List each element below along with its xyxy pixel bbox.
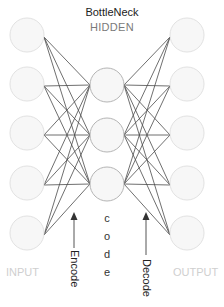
input-label: INPUT (6, 266, 39, 278)
decode-label: Decode (141, 259, 153, 297)
decode-arrow-head-icon (143, 212, 150, 220)
input-node-2 (10, 67, 44, 101)
decode-arrow (143, 212, 150, 255)
output-label: OUTPUT (173, 266, 218, 278)
hidden-bottleneck-layer (90, 68, 124, 201)
output-node-3 (170, 116, 204, 150)
diagram-title: BottleNeck (0, 6, 224, 18)
decoder-edge (124, 37, 170, 85)
encoder-edge (44, 85, 90, 235)
input-node-3 (10, 116, 44, 150)
encode-arrow (71, 212, 78, 248)
diagram-subtitle: HIDDEN (0, 21, 224, 33)
decoder-edge (124, 184, 170, 235)
input-node-4 (10, 166, 44, 200)
code-letter-o: o (100, 230, 114, 242)
encoder-edge (44, 184, 90, 235)
hidden-node-1 (90, 68, 124, 102)
hidden-node-3 (90, 167, 124, 201)
decoder-edge (124, 184, 170, 185)
output-layer (170, 18, 204, 250)
encode-label: Encode (69, 250, 81, 287)
encode-arrow-head-icon (71, 212, 78, 220)
output-node-4 (170, 166, 204, 200)
autoencoder-diagram (0, 0, 224, 307)
decoder-edge (124, 37, 170, 184)
output-node-5 (170, 216, 204, 250)
output-node-2 (170, 67, 204, 101)
input-layer (10, 18, 44, 250)
code-letter-d: d (100, 248, 114, 260)
encoder-edge (44, 37, 90, 85)
hidden-node-2 (90, 118, 124, 152)
decoder-connections (124, 37, 170, 235)
code-letter-e: e (100, 266, 114, 278)
encoder-edge (44, 85, 90, 86)
input-node-5 (10, 216, 44, 250)
code-letter-c: c (100, 212, 114, 224)
encoder-connections (44, 37, 90, 235)
